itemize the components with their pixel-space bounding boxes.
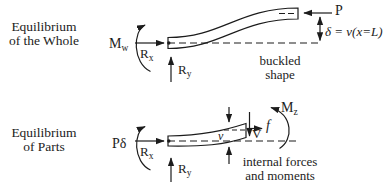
v-deflection-label: v <box>218 130 223 142</box>
internal-caption-line2: and moments <box>234 169 326 183</box>
figure-beam-equilibrium: Equilibrium of the Whole Mw Rx Ry P δ = … <box>0 0 390 192</box>
cut-beam-outline <box>168 124 246 147</box>
internal-forces-caption: internal forces and moments <box>234 155 326 182</box>
mw-label: Mw <box>109 37 128 51</box>
heading-parts-line1: Equilibrium <box>2 126 86 140</box>
heading-whole-line2: of the Whole <box>2 34 86 48</box>
heading-whole-line1: Equilibrium <box>2 20 86 34</box>
axial-f-label: f <box>266 119 270 133</box>
heading-equilibrium-parts: Equilibrium of Parts <box>2 126 86 154</box>
buckled-caption-line2: shape <box>240 68 320 82</box>
bottom-support-dot <box>167 139 170 142</box>
rx-label-top: Rx <box>140 47 153 60</box>
mz-label: Mz <box>281 101 298 115</box>
delta-equation-label: δ = v(x=L) <box>325 25 383 38</box>
heading-parts-line2: of Parts <box>2 140 86 154</box>
pdelta-label: Pδ <box>112 137 126 151</box>
buckled-caption-line1: buckled <box>240 54 320 68</box>
top-support-dot <box>167 41 170 44</box>
buckled-shape-caption: buckled shape <box>240 54 320 81</box>
rx-label-bottom: Rx <box>140 145 153 158</box>
ry-label-bottom: Ry <box>178 162 191 175</box>
shear-v-label: V <box>252 127 261 140</box>
p-load-label: P <box>335 4 343 18</box>
ry-label-top: Ry <box>178 63 191 76</box>
heading-equilibrium-whole: Equilibrium of the Whole <box>2 20 86 48</box>
internal-caption-line1: internal forces <box>234 155 326 169</box>
